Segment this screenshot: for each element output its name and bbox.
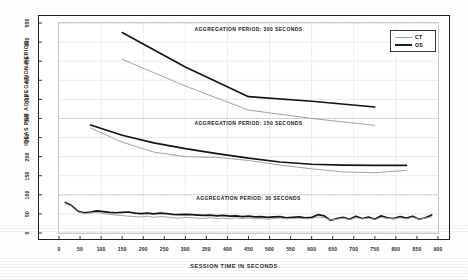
legend-item-ct: CT <box>393 33 433 41</box>
annotation-panel-bottom: AGGREGATION PERIOD: 30 SECONDS <box>189 195 309 201</box>
annotation-panel-top: AGGREGATION PERIOD: 300 SECONDS <box>189 26 309 32</box>
y-tick-label: 550 <box>24 12 30 34</box>
x-tick-label: 750 <box>364 246 386 252</box>
y-tick-label: 350 <box>24 88 30 110</box>
legend-item-os: OS <box>393 41 433 49</box>
y-tick-label: 400 <box>24 69 30 91</box>
chart-legend: CT OS <box>390 30 436 52</box>
chart-figure: IDEAS PER AGGREGATION PERIOD SESSION TIM… <box>0 0 468 280</box>
x-tick-label: 500 <box>259 246 281 252</box>
x-tick-label: 800 <box>385 246 407 252</box>
x-tick-label: 850 <box>406 246 428 252</box>
y-tick-label: 300 <box>24 107 30 129</box>
y-tick-label: 250 <box>24 127 30 149</box>
x-tick-label: 250 <box>153 246 175 252</box>
x-tick-label: 400 <box>216 246 238 252</box>
y-tick-label: 150 <box>24 165 30 187</box>
x-axis-label: SESSION TIME IN SECONDS <box>0 263 468 269</box>
x-tick-label: 550 <box>280 246 302 252</box>
x-tick-label: 450 <box>238 246 260 252</box>
x-tick-label: 0 <box>48 246 70 252</box>
x-tick-label: 350 <box>195 246 217 252</box>
legend-line-ct-icon <box>395 37 412 38</box>
x-tick-label: 900 <box>427 246 449 252</box>
x-tick-label: 100 <box>90 246 112 252</box>
x-tick-label: 50 <box>69 246 91 252</box>
x-tick-label: 200 <box>132 246 154 252</box>
x-tick-label: 700 <box>343 246 365 252</box>
y-tick-label: 450 <box>24 50 30 72</box>
y-tick-label: 100 <box>24 184 30 206</box>
annotation-panel-middle: AGGREGATION PERIOD: 150 SECONDS <box>189 120 309 126</box>
x-tick-label: 150 <box>111 246 133 252</box>
y-tick-label: 0 <box>24 222 30 244</box>
x-tick-label: 300 <box>174 246 196 252</box>
x-tick-label: 650 <box>322 246 344 252</box>
legend-label-os: OS <box>415 42 423 48</box>
y-tick-label: 500 <box>24 31 30 53</box>
y-tick-label: 50 <box>24 203 30 225</box>
legend-label-ct: CT <box>415 34 423 40</box>
x-tick-label: 600 <box>301 246 323 252</box>
legend-line-os-icon <box>395 44 412 46</box>
